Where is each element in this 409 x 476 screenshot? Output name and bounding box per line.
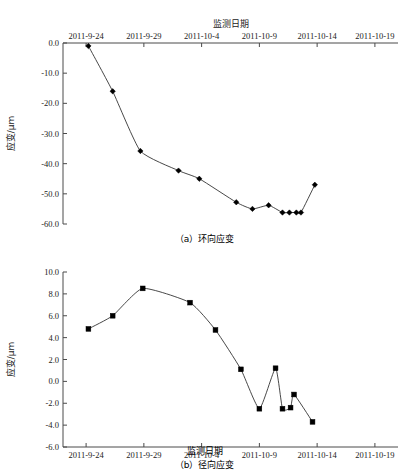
caption-a-row: （a）环向应变 <box>0 228 409 246</box>
chart-b-data-point <box>86 326 91 331</box>
chart-b-data-point <box>213 328 218 333</box>
chart-b-y-tick-label: 0.0 <box>48 376 59 386</box>
chart-a-x-tick-label: 2011-9-29 <box>126 31 161 41</box>
chart-b-data-point <box>310 419 315 424</box>
chart-a-data-point <box>266 203 271 208</box>
chart-a-data-point <box>110 89 115 94</box>
chart-a-data-line <box>88 46 314 214</box>
chart-a-x-tick-label: 2011-9-24 <box>69 31 105 41</box>
chart-b-y-tick-label: 2.0 <box>48 355 59 365</box>
chart-a-x-tick-label: 2011-10-9 <box>242 31 277 41</box>
chart-b-data-point <box>140 286 145 291</box>
chart-b-data-point <box>273 366 278 371</box>
chart-a-x-tick-label: 2011-10-4 <box>184 31 220 41</box>
chart-b-data-point <box>292 392 297 397</box>
chart-b-y-tick-label: 8.0 <box>48 289 59 299</box>
chart-a-x-tick-label: 2011-10-14 <box>297 31 337 41</box>
chart-a-data-point <box>280 210 285 215</box>
chart-a-data-point <box>197 176 202 181</box>
chart-b-data-point <box>280 406 285 411</box>
chart-b-data-point <box>288 405 293 410</box>
chart-a-data-point <box>298 210 303 215</box>
chart-b-data-point <box>257 406 262 411</box>
chart-a-data-point <box>287 210 292 215</box>
chart-b-y-tick-label: 4.0 <box>48 333 59 343</box>
caption-a-text: （a）环向应变 <box>175 234 235 244</box>
figure-page: 2011-9-242011-9-292011-10-42011-10-92011… <box>0 0 409 476</box>
chart-a-data-point <box>250 206 255 211</box>
chart-a-y-tick-label: 0.0 <box>48 38 59 48</box>
chart-b-y-tick-label: 10.0 <box>44 267 59 277</box>
caption-b-row: （b）径向应变 <box>0 454 409 472</box>
chart-a-container: 2011-9-242011-9-292011-10-42011-10-92011… <box>0 0 409 250</box>
chart-a-svg: 2011-9-242011-9-292011-10-42011-10-92011… <box>0 0 409 250</box>
chart-b-plot: 2011-9-242011-9-292011-10-42011-10-92011… <box>5 267 398 460</box>
chart-a-y-tick-label: -10.0 <box>41 68 59 78</box>
chart-a-x-axis-title: 监测日期 <box>213 18 249 29</box>
chart-a-x-tick-label: 2011-10-19 <box>355 31 394 41</box>
chart-a-data-point <box>234 200 239 205</box>
chart-b-container: 2011-9-242011-9-292011-10-42011-10-92011… <box>0 250 409 476</box>
caption-b-text: （b）径向应变 <box>175 460 235 470</box>
chart-a-y-tick-label: -50.0 <box>41 189 59 199</box>
chart-a-y-axis-title: 应变/μm <box>5 116 16 152</box>
chart-b-data-line <box>88 288 312 422</box>
chart-b-data-point <box>238 367 243 372</box>
chart-a-data-point <box>176 168 181 173</box>
chart-b-data-point <box>110 313 115 318</box>
chart-b-y-tick-label: 6.0 <box>48 311 59 321</box>
chart-a-y-tick-label: -20.0 <box>41 98 59 108</box>
chart-a-plot: 2011-9-242011-9-292011-10-42011-10-92011… <box>5 18 398 229</box>
chart-a-y-tick-label: -40.0 <box>41 159 59 169</box>
chart-a-y-tick-label: -30.0 <box>41 129 59 139</box>
chart-b-data-point <box>188 300 193 305</box>
chart-b-y-tick-label: -2.0 <box>46 398 59 408</box>
chart-b-y-tick-label: -4.0 <box>46 420 59 430</box>
chart-a-data-point <box>312 182 317 187</box>
chart-b-y-axis-title: 应变/μm <box>5 342 16 378</box>
